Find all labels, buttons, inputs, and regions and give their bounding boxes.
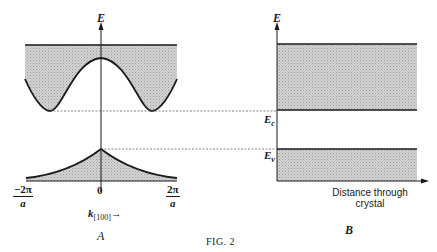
dashed-connectors [50, 111, 277, 149]
x-axis-label-line2: crystal [315, 198, 425, 209]
tick-numerator: −2π [13, 184, 33, 197]
panel-b-conduction-band [277, 44, 417, 110]
x-axis-arrow-icon: → [111, 207, 122, 219]
ev-subscript: v [271, 155, 275, 164]
x-axis-label-line1: Distance through [315, 187, 425, 198]
ec-subscript: c [271, 119, 275, 128]
tick-label-zero: 0 [97, 185, 103, 196]
panel-b-y-axis-label: E [273, 12, 281, 24]
panel-a-y-axis-label: E [97, 12, 105, 24]
valence-level-label: Ev [264, 150, 275, 164]
band-structure-figure [0, 0, 437, 252]
k-direction-subscript: [100] [94, 213, 111, 222]
panel-b-valence-band [277, 149, 417, 181]
panel-b-x-axis-label: Distance through crystal [315, 187, 425, 209]
tick-denominator: a [13, 197, 33, 209]
conduction-level-label: Ec [264, 114, 275, 128]
panel-b-label: B [345, 224, 353, 236]
panel-a-x-axis-label: k[100]→ [88, 208, 122, 222]
panel-a-label: A [97, 230, 104, 242]
tick-denominator: a [166, 197, 180, 209]
tick-label-2pi-over-a: 2π a [166, 184, 180, 209]
figure-caption: FIG. 2 [206, 236, 235, 247]
tick-numerator: 2π [166, 184, 180, 197]
tick-label-minus-2pi-over-a: −2π a [13, 184, 33, 209]
